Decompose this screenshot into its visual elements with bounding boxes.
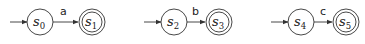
- transition-label-a: a: [60, 5, 67, 18]
- automaton-1: s0 a s1: [10, 5, 105, 35]
- transition-label-c: c: [320, 5, 326, 18]
- automaton-2: s2 b s3: [144, 5, 232, 35]
- automaton-3: s4 c s5: [271, 5, 359, 35]
- automata-diagram: s0 a s1 s2 b s3 s4 c s5: [0, 0, 365, 44]
- transition-label-b: b: [192, 5, 199, 18]
